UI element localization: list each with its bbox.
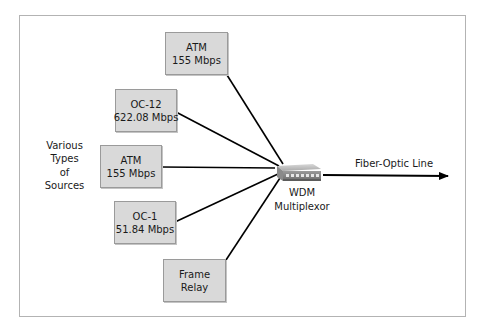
source-name: Frame <box>179 268 210 281</box>
source-name-cont: Relay <box>181 281 208 294</box>
source-atm-mid: ATM 155 Mbps <box>100 145 162 188</box>
link-atm-mid <box>162 167 275 168</box>
source-rate: 155 Mbps <box>107 167 156 180</box>
source-atm-top: ATM 155 Mbps <box>165 32 228 75</box>
mux-label-line: Multiplexor <box>272 200 332 214</box>
side-label-line: of <box>42 166 87 179</box>
source-name: ATM <box>186 41 207 54</box>
fiber-optic-arrow <box>323 175 448 176</box>
side-label-line: Types <box>42 152 87 165</box>
source-name: OC-12 <box>130 98 161 111</box>
source-frame-relay: Frame Relay <box>163 259 226 302</box>
source-rate: 51.84 Mbps <box>116 223 174 236</box>
multiplexor-label: WDM Multiplexor <box>272 186 332 213</box>
source-rate: 155 Mbps <box>172 54 221 67</box>
link-atm-top <box>227 75 283 164</box>
source-name: ATM <box>121 154 142 167</box>
fiber-optic-line-label: Fiber-Optic Line <box>355 158 433 169</box>
source-oc1: OC-1 51.84 Mbps <box>114 201 176 244</box>
source-name: OC-1 <box>133 210 158 223</box>
source-rate: 622.08 Mbps <box>114 111 179 124</box>
wdm-multiplexor-icon <box>273 162 323 183</box>
mux-label-line: WDM <box>272 186 332 200</box>
link-oc1 <box>175 174 278 222</box>
side-label-line: Various <box>42 139 87 152</box>
link-oc12 <box>176 112 279 166</box>
side-label-line: Sources <box>42 179 87 192</box>
source-oc12: OC-12 622.08 Mbps <box>115 89 177 132</box>
various-sources-label: Various Types of Sources <box>42 139 87 192</box>
